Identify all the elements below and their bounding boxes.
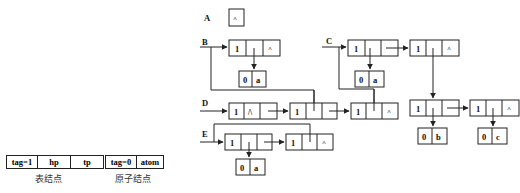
b-node-tag: 1 bbox=[235, 44, 239, 54]
c-n4-tag: 1 bbox=[476, 104, 480, 114]
d-n3-tp: ^ bbox=[387, 108, 391, 116]
label-d: D bbox=[202, 98, 208, 108]
legend-atom-value-cell: atom bbox=[137, 156, 164, 169]
label-e: E bbox=[202, 129, 208, 139]
list-c bbox=[322, 40, 519, 144]
c-atom-c-tag: 0 bbox=[482, 132, 486, 142]
d-n1-tag: 1 bbox=[234, 107, 238, 117]
legend-list-node: tag=1 hp tp bbox=[6, 155, 104, 169]
c-n2-tag: 1 bbox=[416, 44, 420, 54]
b-node-tp: ^ bbox=[268, 45, 272, 53]
c-atom-b-value: b bbox=[436, 132, 441, 142]
d-n1-hp: /\ bbox=[247, 108, 253, 117]
b-atom-tag: 0 bbox=[243, 75, 247, 85]
c-atom-a-tag: 0 bbox=[359, 75, 363, 85]
legend-atom-node: tag=0 atom bbox=[105, 155, 164, 169]
c-n1-tag: 1 bbox=[354, 44, 358, 54]
e-atom-tag: 0 bbox=[240, 163, 244, 173]
e-n2-tp: ^ bbox=[322, 139, 326, 147]
a-value: ^ bbox=[233, 15, 237, 23]
c-atom-b-tag: 0 bbox=[422, 132, 426, 142]
e-n2-tag: 1 bbox=[291, 138, 295, 148]
legend-atom-node-caption: 原子结点 bbox=[115, 172, 151, 185]
legend-hp-cell: hp bbox=[38, 156, 71, 169]
c-atom-c-value: c bbox=[496, 132, 500, 142]
legend-tag-cell: tag=1 bbox=[7, 156, 38, 169]
c-n2-tp: ^ bbox=[447, 45, 451, 53]
c-n4-tp: ^ bbox=[507, 105, 511, 113]
label-a: A bbox=[204, 13, 211, 23]
e-n1-tag: 1 bbox=[230, 138, 234, 148]
legend-tp-cell: tp bbox=[71, 156, 104, 169]
label-c: C bbox=[326, 36, 332, 46]
d-n3-tag: 1 bbox=[356, 107, 360, 117]
list-e bbox=[200, 124, 333, 175]
c-n3-tag: 1 bbox=[416, 104, 420, 114]
legend-list-node-caption: 表结点 bbox=[35, 172, 62, 185]
label-b: B bbox=[202, 37, 208, 47]
legend-atom-tag-cell: tag=0 bbox=[106, 156, 137, 169]
d-n2-tag: 1 bbox=[295, 107, 299, 117]
